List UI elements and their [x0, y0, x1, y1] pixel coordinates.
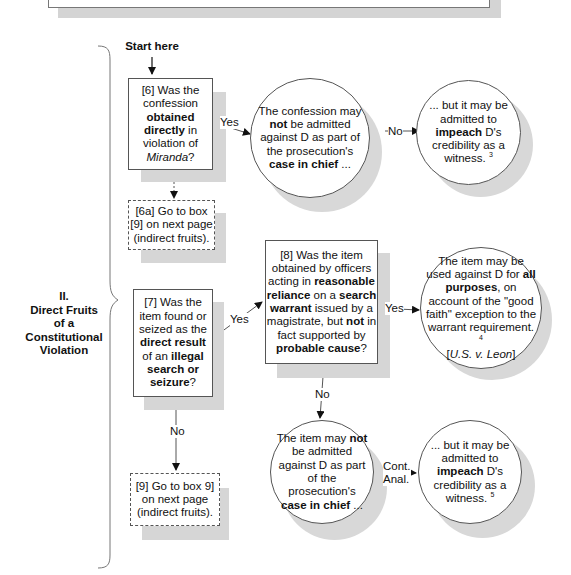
- outcome-circle-confession-excluded[interactable]: The confession may not be admitted again…: [250, 78, 370, 198]
- question-box-7[interactable]: [7] Was the item found or seized as the …: [133, 289, 213, 397]
- section-label: II. Direct Fruits of a Constitutional Vi…: [14, 290, 114, 358]
- outcome-circle-impeach-5[interactable]: ... but it may be admitted to impeach D'…: [418, 420, 522, 524]
- edge-label-yes: Yes: [385, 302, 404, 315]
- goto-box-6a[interactable]: [6a] Go to box [9] on next page (indirec…: [128, 200, 215, 250]
- section-title-line: of a: [14, 317, 114, 331]
- section-numeral: II.: [14, 290, 114, 304]
- outcome-circle-impeach-3[interactable]: ... but it may be admitted to impeach D'…: [416, 80, 521, 185]
- goto-box-9[interactable]: [9] Go to box 9] on next page (indirect …: [130, 473, 220, 526]
- outcome-circle-good-faith-4[interactable]: The item may be used against D for all p…: [420, 247, 542, 369]
- question-box-6[interactable]: [6] Was the confession obtained directly…: [128, 78, 213, 170]
- start-here-label: Start here: [112, 40, 192, 53]
- outcome-circle-item-excluded[interactable]: The item may not be admitted against D a…: [270, 420, 374, 524]
- question-box-8[interactable]: [8] Was the item obtained by officers ac…: [265, 240, 378, 364]
- edge-label-yes: Yes: [220, 116, 239, 129]
- section-title-line: Violation: [14, 344, 114, 358]
- section-title-line: Constitutional: [14, 331, 114, 345]
- section-title-line: Direct Fruits: [14, 304, 114, 318]
- edge-label-no: No: [170, 425, 185, 438]
- edge-label-yes: Yes: [230, 313, 249, 326]
- edge-label-no: No: [388, 125, 403, 138]
- edge-label-no: No: [315, 388, 330, 401]
- edge-label-cont-anal: Cont. Anal.: [383, 460, 411, 486]
